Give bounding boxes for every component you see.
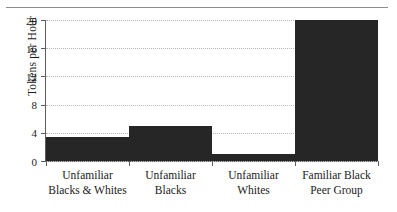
y-axis-tick-mark [41,20,46,21]
x-axis-category-label-line: Blacks [129,183,212,198]
y-axis-tick: 20 [41,20,46,21]
x-axis-category-label: UnfamiliarBlacks [129,168,212,198]
y-axis-tick-label: 8 [32,100,38,111]
top-horizontal-rule [6,7,388,8]
bar [129,126,212,161]
y-axis-tick-mark [41,133,46,134]
x-axis-separator [378,161,379,166]
y-axis-tick: 8 [41,105,46,106]
y-axis-tick-label: 12 [26,71,37,82]
x-axis-category-label-line: Peer Group [295,183,378,198]
y-axis-tick-mark [41,48,46,49]
x-axis-separator [295,161,296,166]
x-axis-category-label-line: Whites [212,183,295,198]
x-axis-separator [129,161,130,166]
x-axis-separator [46,161,47,166]
x-axis-category-label-line: Unfamiliar [46,168,129,183]
x-axis-category-label: UnfamiliarBlacks & Whites [46,168,129,198]
y-axis-tick: 4 [41,133,46,134]
y-axis-tick-mark [41,76,46,77]
x-axis-separator [212,161,213,166]
x-axis-category-label-line: Unfamiliar [129,168,212,183]
plot-area [46,20,378,161]
y-axis-tick: 12 [41,76,46,77]
x-axis-category-label-line: Blacks & Whites [46,183,129,198]
x-axis-category-label: Familiar BlackPeer Group [295,168,378,198]
y-axis-title-host: Tokens per Hour [6,38,20,148]
y-axis-tick-mark [41,105,46,106]
y-axis-tick-label: 0 [32,156,38,167]
x-axis-category-label-line: Unfamiliar [212,168,295,183]
y-axis-tick-label: 16 [26,43,37,54]
x-axis-category-label-line: Familiar Black [295,168,378,183]
y-axis-tick: 16 [41,48,46,49]
bar-chart-figure: Tokens per Hour 048121620 UnfamiliarBlac… [0,0,397,212]
bar [212,154,295,161]
bar [46,137,129,161]
bar [295,20,378,161]
y-axis-tick-label: 20 [26,15,37,26]
y-axis-tick-label: 4 [32,128,38,139]
x-axis-category-label: UnfamiliarWhites [212,168,295,198]
